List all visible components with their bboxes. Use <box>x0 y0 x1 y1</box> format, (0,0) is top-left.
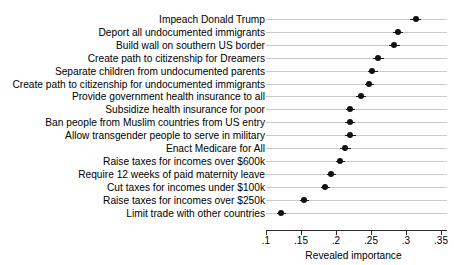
chart-row: Cut taxes for incomes under $100k <box>0 181 454 194</box>
category-label: Create path to citizenship for Dreamers <box>88 52 265 65</box>
data-point[interactable] <box>322 184 328 190</box>
category-label: Deport all undocumented immigrants <box>99 26 265 39</box>
gridline <box>266 187 447 188</box>
x-axis-tick-label: .15 <box>286 235 316 247</box>
gridline <box>266 45 447 46</box>
category-label: Allow transgender people to serve in mil… <box>65 129 265 142</box>
chart-row: Create path to citizenship for undocumen… <box>0 78 454 91</box>
x-axis-tick-label: .1 <box>251 235 281 247</box>
data-point[interactable] <box>375 55 381 61</box>
gridline <box>266 213 447 214</box>
data-point[interactable] <box>347 119 353 125</box>
data-point[interactable] <box>337 158 343 164</box>
data-point[interactable] <box>342 145 348 151</box>
chart-row: Deport all undocumented immigrants <box>0 26 454 39</box>
gridline <box>266 122 447 123</box>
data-point[interactable] <box>358 93 364 99</box>
data-point[interactable] <box>366 81 372 87</box>
category-label: Require 12 weeks of paid maternity leave <box>78 168 265 181</box>
category-label: Create path to citizenship for undocumen… <box>12 78 265 91</box>
category-label: Subsidize health insurance for poor <box>105 103 265 116</box>
data-point[interactable] <box>301 197 307 203</box>
data-point[interactable] <box>369 68 375 74</box>
gridline <box>266 32 447 33</box>
data-point[interactable] <box>278 210 284 216</box>
gridline <box>266 71 447 72</box>
gridline <box>266 200 447 201</box>
x-axis-tick-label: .35 <box>426 235 454 247</box>
x-axis-tick-label: .25 <box>356 235 386 247</box>
dot-plot-chart: Impeach Donald TrumpDeport all undocumen… <box>0 0 454 265</box>
category-label: Enact Medicare for All <box>166 142 265 155</box>
chart-row: Subsidize health insurance for poor <box>0 103 454 116</box>
gridline <box>266 135 447 136</box>
category-label: Limit trade with other countries <box>126 207 265 220</box>
chart-row: Provide government health insurance to a… <box>0 90 454 103</box>
category-label: Cut taxes for incomes under $100k <box>107 181 265 194</box>
chart-row: Create path to citizenship for Dreamers <box>0 52 454 65</box>
category-label: Separate children from undocumented pare… <box>55 65 265 78</box>
x-axis-tick-label: .2 <box>321 235 351 247</box>
plot-area: Impeach Donald TrumpDeport all undocumen… <box>0 0 454 265</box>
data-point[interactable] <box>328 171 334 177</box>
chart-row: Build wall on southern US border <box>0 39 454 52</box>
category-label: Build wall on southern US border <box>116 39 265 52</box>
chart-row: Ban people from Muslim countries from US… <box>0 116 454 129</box>
gridline <box>266 109 447 110</box>
category-label: Impeach Donald Trump <box>159 13 265 26</box>
chart-row: Raise taxes for incomes over $600k <box>0 155 454 168</box>
category-label: Provide government health insurance to a… <box>72 90 265 103</box>
gridline <box>266 161 447 162</box>
chart-row: Enact Medicare for All <box>0 142 454 155</box>
data-point[interactable] <box>391 42 397 48</box>
chart-row: Require 12 weeks of paid maternity leave <box>0 168 454 181</box>
category-label: Raise taxes for incomes over $600k <box>103 155 265 168</box>
gridline <box>266 174 447 175</box>
chart-row: Separate children from undocumented pare… <box>0 65 454 78</box>
chart-row: Limit trade with other countries <box>0 207 454 220</box>
data-point[interactable] <box>413 16 419 22</box>
data-point[interactable] <box>347 132 353 138</box>
data-point[interactable] <box>395 29 401 35</box>
category-label: Raise taxes for incomes over $250k <box>103 194 265 207</box>
chart-row: Allow transgender people to serve in mil… <box>0 129 454 142</box>
chart-row: Raise taxes for incomes over $250k <box>0 194 454 207</box>
x-axis-line <box>266 230 447 231</box>
gridline <box>266 148 447 149</box>
gridline <box>266 58 447 59</box>
category-label: Ban people from Muslim countries from US… <box>45 116 265 129</box>
data-point[interactable] <box>347 106 353 112</box>
x-axis-title: Revealed importance <box>127 249 454 262</box>
x-axis-tick-label: .3 <box>391 235 421 247</box>
gridline <box>266 84 447 85</box>
chart-row: Impeach Donald Trump <box>0 13 454 26</box>
